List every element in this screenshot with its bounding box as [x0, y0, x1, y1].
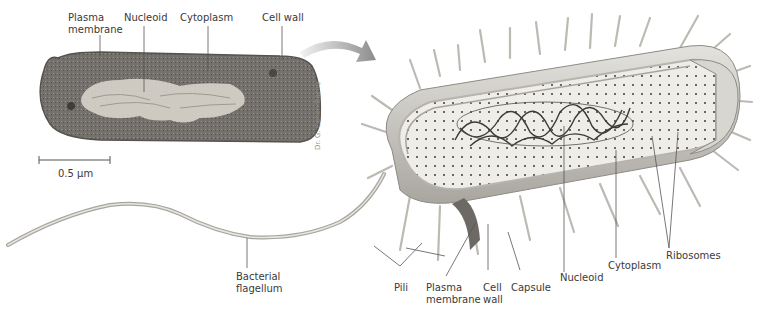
- dark-granule: [269, 69, 277, 77]
- label-plasma-membrane: Plasma membrane: [426, 282, 481, 306]
- scale-bar-label: 0.5 µm: [58, 168, 93, 180]
- prokaryotic-cell-figure: Plasma membrane Nucleoid Cytoplasm Cell …: [0, 0, 762, 313]
- bacterial-flagellum: [8, 174, 384, 245]
- label-pili: Pili: [394, 282, 408, 294]
- label-ribosomes: Ribosomes: [666, 250, 721, 262]
- label-cell-wall-micrograph: Cell wall: [262, 12, 304, 24]
- label-capsule: Capsule: [511, 282, 551, 294]
- transition-arrow: [300, 40, 376, 62]
- dark-granule: [67, 102, 75, 110]
- image-credit: Dr. G. Cohen-Bazire: [314, 82, 322, 150]
- label-bacterial-flagellum: Bacterial flagellum: [236, 271, 283, 295]
- label-nucleoid-micrograph: Nucleoid: [124, 12, 168, 24]
- label-plasma-membrane-micrograph: Plasma membrane: [68, 12, 123, 36]
- membrane-cutaway: [452, 198, 480, 250]
- micrograph-nucleoid-region: [81, 79, 245, 123]
- label-nucleoid: Nucleoid: [560, 272, 604, 284]
- label-cytoplasm: Cytoplasm: [608, 260, 661, 272]
- electron-micrograph: [40, 52, 320, 142]
- scale-bar: [39, 156, 110, 164]
- label-cytoplasm-micrograph: Cytoplasm: [180, 12, 233, 24]
- label-cell-wall: Cell wall: [483, 282, 503, 306]
